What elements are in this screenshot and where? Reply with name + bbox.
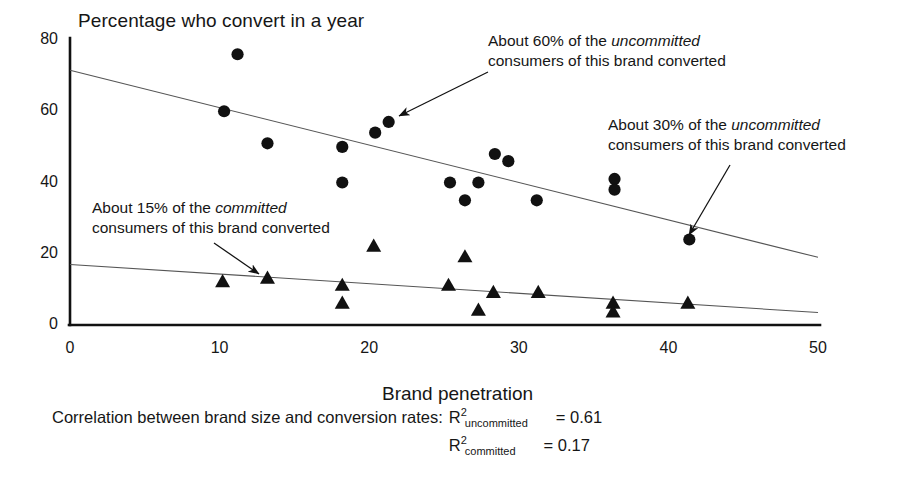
annotation-emphasis: uncommitted: [611, 32, 700, 49]
r-symbol: R: [449, 436, 461, 454]
annotation-arrow: [399, 72, 488, 116]
chart-title: Percentage who convert in a year: [78, 10, 364, 32]
data-point-committed: [606, 304, 621, 317]
annotation-line-2: consumers of this brand converted: [488, 51, 726, 71]
data-point-uncommitted: [218, 105, 230, 117]
annotation-text: About 15% of the: [92, 199, 215, 216]
r-squared-value: = 0.61: [556, 408, 602, 427]
data-point-committed: [471, 303, 486, 316]
annotation-uncommitted-60: About 60% of the uncommitted consumers o…: [488, 31, 726, 70]
annotation-line-2: consumers of this brand converted: [608, 135, 846, 155]
data-point-committed: [531, 285, 546, 298]
data-point-uncommitted: [683, 233, 695, 245]
data-point-uncommitted: [336, 141, 348, 153]
data-point-committed: [441, 278, 456, 291]
x-tick-label: 40: [648, 339, 688, 357]
data-point-committed: [366, 238, 381, 251]
data-point-uncommitted: [231, 48, 243, 60]
data-point-uncommitted: [489, 148, 501, 160]
data-point-uncommitted: [502, 155, 514, 167]
data-point-uncommitted: [336, 176, 348, 188]
annotation-emphasis: uncommitted: [731, 116, 820, 133]
data-point-committed: [606, 295, 621, 308]
annotation-line-2: consumers of this brand converted: [92, 218, 330, 238]
annotation-line-1: About 30% of the uncommitted: [608, 115, 846, 135]
annotation-line-1: About 60% of the uncommitted: [488, 31, 726, 51]
data-point-committed: [260, 271, 275, 284]
x-tick-label: 0: [50, 339, 90, 357]
r-subscript: committed: [465, 445, 516, 457]
footnote-lead: Correlation between brand size and conve…: [52, 408, 443, 427]
correlation-footnote: Correlation between brand size and conve…: [0, 408, 915, 455]
x-tick-label: 20: [349, 339, 389, 357]
data-point-committed: [215, 274, 230, 287]
data-point-committed: [335, 295, 350, 308]
data-point-uncommitted: [261, 137, 273, 149]
annotation-line-1: About 15% of the committed: [92, 198, 330, 218]
annotation-emphasis: committed: [215, 199, 287, 216]
data-point-uncommitted: [459, 194, 471, 206]
annotation-uncommitted-30: About 30% of the uncommitted consumers o…: [608, 115, 846, 154]
x-axis-label: Brand penetration: [0, 383, 915, 405]
data-point-uncommitted: [383, 116, 395, 128]
data-point-uncommitted: [472, 176, 484, 188]
footnote-row: Correlation between brand size and conve…: [0, 408, 915, 427]
footnote-row: Correlation between brand size and conve…: [0, 436, 915, 455]
y-tick-label: 40: [24, 173, 58, 191]
y-tick-label: 80: [24, 30, 58, 48]
data-point-committed: [680, 295, 695, 308]
data-point-uncommitted: [608, 173, 620, 185]
data-point-committed: [486, 285, 501, 298]
r-squared-symbol: R2uncommitted: [449, 408, 530, 427]
x-tick-label: 10: [200, 339, 240, 357]
x-tick-label: 50: [798, 339, 838, 357]
annotation-arrow: [214, 243, 259, 274]
annotation-text: About 60% of the: [488, 32, 611, 49]
annotation-text: About 30% of the: [608, 116, 731, 133]
r-squared-value: = 0.17: [544, 436, 590, 455]
data-point-uncommitted: [608, 184, 620, 196]
trendline-committed: [70, 264, 818, 312]
data-point-uncommitted: [369, 127, 381, 139]
y-tick-label: 60: [24, 101, 58, 119]
x-tick-label: 30: [499, 339, 539, 357]
annotation-committed-15: About 15% of the committed consumers of …: [92, 198, 330, 237]
annotation-arrow: [689, 165, 730, 235]
r-symbol: R: [449, 408, 461, 426]
y-tick-label: 0: [24, 315, 58, 333]
r-squared-symbol: R2committed: [449, 436, 518, 455]
r-subscript: uncommitted: [465, 417, 528, 429]
data-point-uncommitted: [531, 194, 543, 206]
data-point-committed: [335, 278, 350, 291]
data-point-uncommitted: [444, 176, 456, 188]
scatter-chart-figure: Percentage who convert in a year 0204060…: [0, 0, 915, 484]
data-point-committed: [457, 249, 472, 262]
y-tick-label: 20: [24, 244, 58, 262]
